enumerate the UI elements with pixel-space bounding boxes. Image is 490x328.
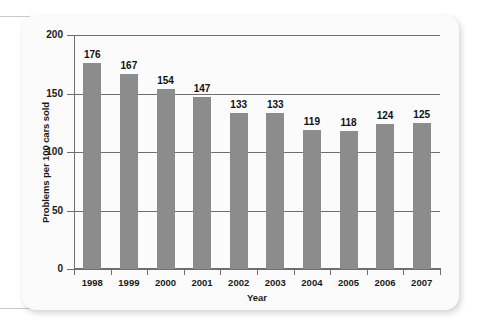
x-tick-label: 2002 bbox=[228, 277, 249, 288]
bar: 118 bbox=[340, 35, 358, 269]
x-tick bbox=[184, 268, 185, 275]
x-tick-label: 2007 bbox=[411, 277, 432, 288]
bar-value-label: 119 bbox=[304, 116, 320, 127]
bar: 133 bbox=[266, 35, 284, 269]
bar: 133 bbox=[230, 35, 248, 269]
bar-rect bbox=[193, 97, 211, 269]
bar-rect bbox=[376, 124, 394, 269]
bar-value-label: 124 bbox=[377, 110, 394, 121]
bar-chart: Problems per 100 cars sold 050100150200 … bbox=[22, 15, 459, 310]
x-tick-label: 2004 bbox=[301, 277, 322, 288]
bar-rect bbox=[157, 89, 175, 269]
bar-value-label: 133 bbox=[230, 99, 247, 110]
bar: 119 bbox=[303, 35, 321, 269]
x-tick bbox=[111, 268, 112, 275]
chart-figure-card: Problems per 100 cars sold 050100150200 … bbox=[22, 15, 459, 310]
y-tick: 150 bbox=[67, 94, 74, 95]
bar-value-label: 133 bbox=[267, 99, 284, 110]
y-tick: 0 bbox=[67, 269, 74, 270]
x-tick bbox=[220, 268, 221, 275]
x-tick-label: 1999 bbox=[118, 277, 139, 288]
y-tick: 100 bbox=[67, 152, 74, 153]
x-axis-title: Year bbox=[74, 292, 440, 303]
x-tick bbox=[440, 268, 441, 275]
bar: 176 bbox=[83, 35, 101, 269]
bar-rect bbox=[303, 130, 321, 269]
y-tick-label: 200 bbox=[46, 29, 63, 40]
x-tick bbox=[257, 268, 258, 275]
x-tick bbox=[367, 268, 368, 275]
x-tick bbox=[294, 268, 295, 275]
y-tick: 200 bbox=[67, 35, 74, 36]
bar-rect bbox=[340, 131, 358, 269]
bar-value-label: 167 bbox=[121, 60, 138, 71]
y-tick-label: 50 bbox=[52, 205, 63, 216]
bar-value-label: 176 bbox=[84, 49, 101, 60]
bar: 124 bbox=[376, 35, 394, 269]
bar: 147 bbox=[193, 35, 211, 269]
y-tick-label: 0 bbox=[57, 263, 63, 274]
bar: 125 bbox=[413, 35, 431, 269]
bar-value-label: 147 bbox=[194, 83, 211, 94]
x-tick-label: 2000 bbox=[155, 277, 176, 288]
x-tick-label: 1998 bbox=[82, 277, 103, 288]
bar: 167 bbox=[120, 35, 138, 269]
y-tick-label: 150 bbox=[46, 88, 63, 99]
bar-rect bbox=[413, 123, 431, 269]
bar-value-label: 125 bbox=[413, 109, 430, 120]
x-tick bbox=[147, 268, 148, 275]
x-tick-label: 2006 bbox=[375, 277, 396, 288]
bar-rect bbox=[230, 113, 248, 269]
y-tick-label: 100 bbox=[46, 146, 63, 157]
x-tick-label: 2005 bbox=[338, 277, 359, 288]
y-tick: 50 bbox=[67, 211, 74, 212]
x-tick bbox=[330, 268, 331, 275]
bar-value-label: 154 bbox=[157, 75, 174, 86]
x-tick-label: 2001 bbox=[192, 277, 213, 288]
bar-rect bbox=[266, 113, 284, 269]
x-tick-label: 2003 bbox=[265, 277, 286, 288]
bar-rect bbox=[120, 74, 138, 269]
x-tick bbox=[403, 268, 404, 275]
x-tick bbox=[74, 268, 75, 275]
bar: 154 bbox=[157, 35, 175, 269]
bar-rect bbox=[83, 63, 101, 269]
bar-series: 176167154147133133119118124125 bbox=[74, 35, 440, 269]
y-axis-title: Problems per 100 cars sold bbox=[40, 78, 51, 248]
bar-value-label: 118 bbox=[340, 117, 356, 128]
